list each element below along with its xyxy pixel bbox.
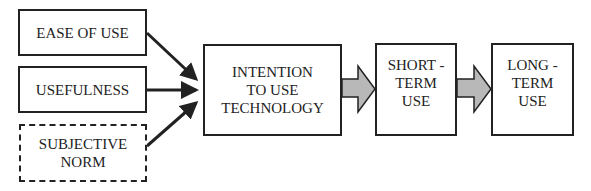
intention-to-use-label: INTENTION TO USE TECHNOLOGY	[221, 63, 324, 117]
intention-to-use-box: INTENTION TO USE TECHNOLOGY	[203, 44, 342, 136]
ease-of-use-box: EASE OF USE	[18, 9, 147, 56]
usefulness-label: USEFULNESS	[36, 81, 129, 99]
long-term-use-label: LONG - TERM USE	[507, 56, 557, 110]
arrow-ease-to-intention	[147, 33, 196, 79]
short-term-use-box: SHORT - TERM USE	[375, 43, 457, 136]
usefulness-box: USEFULNESS	[18, 66, 147, 113]
ease-of-use-label: EASE OF USE	[36, 24, 129, 42]
block-arrow-short-to-long	[457, 66, 491, 112]
block-arrow-intention-to-short	[342, 66, 375, 112]
long-term-use-box: LONG - TERM USE	[491, 43, 574, 136]
arrow-norm-to-intention	[147, 103, 196, 146]
subjective-norm-label: SUBJECTIVE NORM	[39, 135, 127, 171]
subjective-norm-box: SUBJECTIVE NORM	[19, 124, 147, 182]
short-term-use-label: SHORT - TERM USE	[388, 56, 445, 110]
